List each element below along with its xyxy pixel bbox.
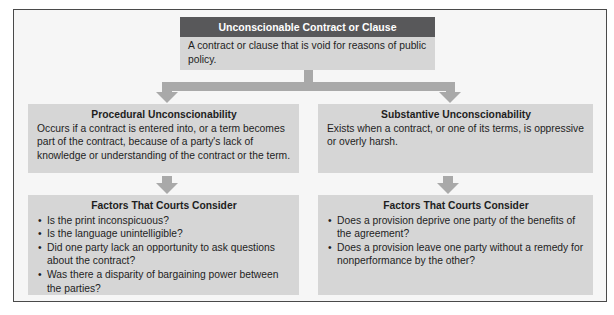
procedural-factors-box: Factors That Courts Consider •Is the pri… bbox=[28, 195, 299, 295]
bullet-icon: • bbox=[328, 214, 332, 228]
substantive-description: Exists when a contract, or one of its te… bbox=[327, 123, 584, 148]
procedural-factors-title: Factors That Courts Consider bbox=[37, 199, 291, 213]
bullet-icon: • bbox=[328, 241, 332, 255]
procedural-box: Procedural Unconscionability Occurs if a… bbox=[28, 104, 299, 173]
substantive-factors-title: Factors That Courts Consider bbox=[327, 199, 585, 213]
factor-text: Was there a disparity of bargaining powe… bbox=[47, 269, 278, 294]
arrow-down-icon bbox=[156, 183, 178, 194]
substantive-box: Substantive Unconscionability Exists whe… bbox=[318, 104, 593, 173]
root-description: A contract or clause that is void for re… bbox=[180, 37, 435, 66]
root-box: Unconscionable Contract or Clause A cont… bbox=[180, 17, 435, 70]
bullet-icon: • bbox=[38, 227, 42, 241]
factor-text: Does a provision leave one party without… bbox=[337, 242, 583, 267]
procedural-factors-list: •Is the print inconspicuous? •Is the lan… bbox=[37, 214, 291, 296]
list-item: •Does a provision deprive one party of t… bbox=[327, 214, 585, 241]
factor-text: Is the print inconspicuous? bbox=[47, 215, 169, 226]
bullet-icon: • bbox=[38, 241, 42, 255]
substantive-factors-list: •Does a provision deprive one party of t… bbox=[327, 214, 585, 268]
root-title: Unconscionable Contract or Clause bbox=[180, 17, 435, 37]
procedural-title: Procedural Unconscionability bbox=[37, 108, 291, 122]
list-item: •Was there a disparity of bargaining pow… bbox=[37, 268, 291, 295]
factor-text: Is the language unintelligible? bbox=[47, 228, 183, 239]
list-item: •Is the print inconspicuous? bbox=[37, 214, 291, 228]
factor-text: Did one party lack an opportunity to ask… bbox=[47, 242, 275, 267]
arrow-down-icon bbox=[156, 92, 178, 103]
list-item: •Does a provision leave one party withou… bbox=[327, 241, 585, 268]
branch-connector-bar bbox=[162, 82, 455, 91]
list-item: •Is the language unintelligible? bbox=[37, 227, 291, 241]
substantive-title: Substantive Unconscionability bbox=[327, 108, 585, 122]
list-item: •Did one party lack an opportunity to as… bbox=[37, 241, 291, 268]
arrow-down-icon bbox=[437, 183, 459, 194]
arrow-down-icon bbox=[439, 92, 461, 103]
bullet-icon: • bbox=[38, 214, 42, 228]
procedural-description: Occurs if a contract is entered into, or… bbox=[37, 123, 290, 161]
bullet-icon: • bbox=[38, 268, 42, 282]
factor-text: Does a provision deprive one party of th… bbox=[337, 215, 575, 240]
substantive-factors-box: Factors That Courts Consider •Does a pro… bbox=[318, 195, 593, 295]
